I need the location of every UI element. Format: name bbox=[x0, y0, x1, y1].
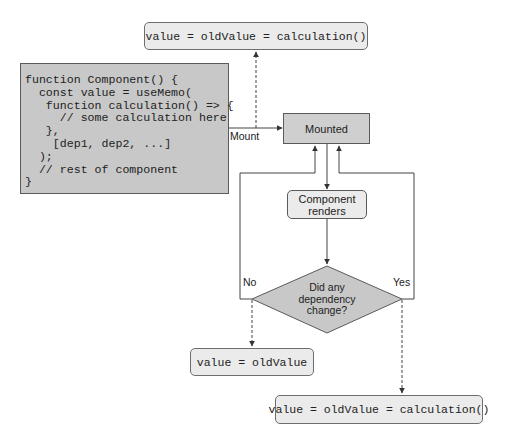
no-output-box: value = oldValue bbox=[190, 348, 314, 376]
render-line-1: Component bbox=[299, 193, 356, 205]
mount-label: Mount bbox=[230, 130, 259, 142]
decision-line-1: Did any bbox=[282, 282, 372, 294]
mounted-state: Mounted bbox=[283, 113, 370, 144]
code-line: ); bbox=[25, 151, 228, 164]
code-line: [dep1, dep2, ...] bbox=[25, 138, 228, 151]
mount-output-box: value = oldValue = calculation() bbox=[144, 22, 368, 50]
code-line: function Component() { bbox=[25, 74, 228, 87]
decision-line-3: change? bbox=[282, 305, 372, 317]
code-line: const value = useMemo( bbox=[25, 87, 228, 100]
yes-label: Yes bbox=[393, 276, 410, 288]
code-line: } bbox=[25, 176, 228, 189]
component-renders-box: Component renders bbox=[287, 190, 367, 219]
code-block: function Component() { const value = use… bbox=[20, 63, 229, 194]
no-label: No bbox=[243, 276, 256, 288]
yes-output-box: value = oldValue = calculation() bbox=[275, 395, 483, 424]
code-line: // rest of component bbox=[25, 164, 228, 177]
usememo-flow-diagram: value = oldValue = calculation() functio… bbox=[0, 0, 505, 441]
decision-text: Did any dependency change? bbox=[282, 282, 372, 317]
render-line-2: renders bbox=[308, 205, 345, 217]
